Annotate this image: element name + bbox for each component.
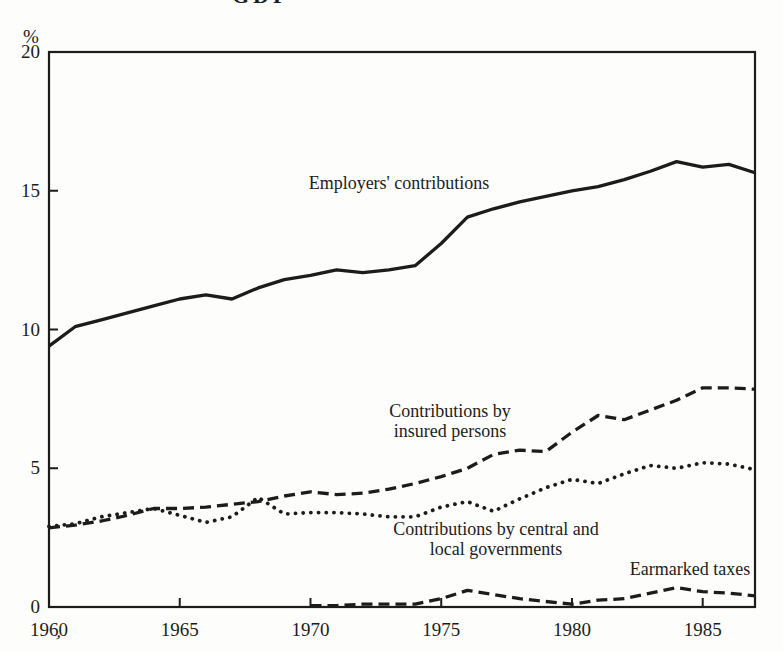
series-label-insured-persons: Contributions by insured persons xyxy=(389,401,511,441)
x-tick-label-1965: 1965 xyxy=(161,619,199,640)
chart-canvas: 05101520196019651970197519801985 xyxy=(0,0,783,652)
x-tick-label-1980: 1980 xyxy=(553,619,591,640)
series-line-earmarked-taxes xyxy=(311,588,756,606)
y-tick-label-5: 5 xyxy=(31,457,41,478)
y-axis-unit-label: % xyxy=(23,26,39,48)
x-tick-label-1975: 1975 xyxy=(422,619,460,640)
cropped-page-title-fragment: GDP xyxy=(232,0,290,9)
x-tick-label-1960: 1960 xyxy=(30,619,68,640)
series-line-contributions-by-central-and-local-governments xyxy=(49,463,755,527)
scanned-chart-page: 05101520196019651970197519801985 GDP % E… xyxy=(0,0,783,652)
y-tick-label-0: 0 xyxy=(31,596,41,617)
x-tick-label-1985: 1985 xyxy=(684,619,722,640)
y-tick-label-15: 15 xyxy=(21,180,40,201)
x-tick-label-1970: 1970 xyxy=(291,619,329,640)
series-label-earmarked-taxes: Earmarked taxes xyxy=(630,559,750,579)
series-label-employers-contributions: Employers' contributions xyxy=(309,173,490,193)
series-label-central-local-governments: Contributions by central and local gover… xyxy=(393,519,598,559)
y-tick-label-10: 10 xyxy=(21,319,40,340)
